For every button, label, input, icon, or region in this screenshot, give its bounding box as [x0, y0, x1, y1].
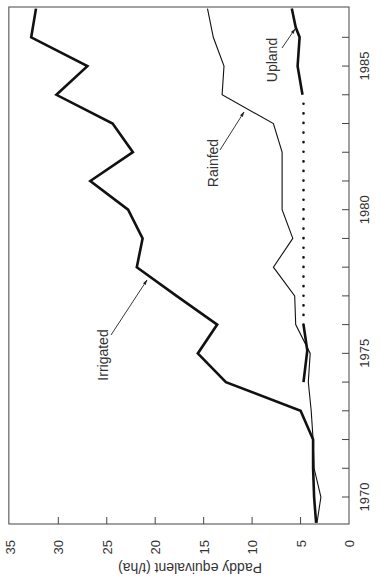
series-line-upland	[292, 9, 303, 95]
rainfed-label: Rainfed	[205, 139, 221, 187]
plot-frame	[9, 7, 349, 524]
value-tick-label: 20	[148, 540, 163, 554]
y-axis-title: Paddy equivalent (t/ha)	[118, 560, 262, 576]
value-tick-label: 15	[197, 540, 212, 554]
upland-leader-arrow	[282, 29, 295, 48]
upland-label: Upland	[264, 38, 280, 82]
value-tick-label: 35	[3, 540, 18, 554]
rice-yield-chart: 051015202530351970197519801985 Irrigated…	[0, 0, 382, 582]
year-tick-label: 1975	[357, 339, 372, 368]
year-tick-label: 1980	[357, 195, 372, 224]
irrigated-leader-arrow	[111, 280, 147, 335]
value-tick-label: 0	[342, 540, 357, 547]
series-line-irrigated	[31, 9, 316, 523]
year-tick-label: 1970	[357, 483, 372, 512]
series-line-upland	[304, 325, 308, 383]
value-tick-label: 5	[294, 540, 309, 547]
series-lines	[31, 9, 321, 523]
value-tick-label: 25	[100, 540, 115, 554]
year-tick-label: 1985	[357, 52, 372, 81]
value-tick-label: 30	[51, 540, 66, 554]
value-tick-label: 10	[245, 540, 260, 554]
irrigated-label: Irrigated	[95, 329, 111, 380]
plot-border	[9, 7, 349, 524]
series-annotations: IrrigatedRainfedUpland	[95, 29, 295, 381]
rainfed-leader-arrow	[220, 112, 244, 150]
